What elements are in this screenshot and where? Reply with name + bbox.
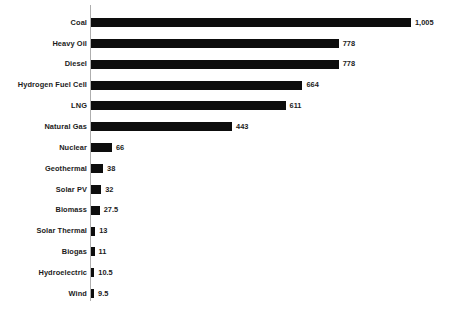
bar-category-label: Hydroelectric xyxy=(0,269,87,276)
bar-container: 1,005 xyxy=(91,12,434,33)
bar-container: 611 xyxy=(91,95,301,116)
bar xyxy=(91,289,94,298)
bar-value-label: 9.5 xyxy=(98,290,108,297)
bar-container: 778 xyxy=(91,54,355,75)
bar-category-label: Natural Gas xyxy=(0,123,87,130)
bar xyxy=(91,101,286,110)
bar-container: 27.5 xyxy=(91,200,118,221)
bar-row: Solar Thermal13 xyxy=(0,221,457,242)
bar-category-label: Solar PV xyxy=(0,186,87,193)
bar-container: 10.5 xyxy=(91,262,113,283)
bar-row: Solar PV32 xyxy=(0,179,457,200)
bar-category-label: Hydrogen Fuel Cell xyxy=(0,81,87,88)
bar-container: 38 xyxy=(91,158,115,179)
bar-value-label: 664 xyxy=(306,81,318,88)
bar xyxy=(91,143,112,152)
bar-container: 778 xyxy=(91,33,355,54)
bar-chart: Coal1,005Heavy Oil778Diesel778Hydrogen F… xyxy=(0,0,457,315)
bar xyxy=(91,39,339,48)
bar-value-label: 10.5 xyxy=(98,269,112,276)
bar xyxy=(91,18,411,27)
bar-container: 13 xyxy=(91,221,107,242)
bar-container: 32 xyxy=(91,179,113,200)
bar-value-label: 27.5 xyxy=(104,206,118,213)
bar-category-label: Geothermal xyxy=(0,165,87,172)
bar xyxy=(91,164,103,173)
bar-category-label: Diesel xyxy=(0,60,87,67)
bar-value-label: 443 xyxy=(236,123,248,130)
bar-category-label: Wind xyxy=(0,290,87,297)
bar-value-label: 11 xyxy=(99,248,107,255)
bar-value-label: 38 xyxy=(107,165,115,172)
bar-row: Biogas11 xyxy=(0,241,457,262)
bar-row: Geothermal38 xyxy=(0,158,457,179)
bar-container: 11 xyxy=(91,241,106,262)
bar-row: Diesel778 xyxy=(0,54,457,75)
bar-container: 443 xyxy=(91,116,248,137)
bar-value-label: 32 xyxy=(105,186,113,193)
bar-value-label: 778 xyxy=(343,60,355,67)
bar xyxy=(91,268,94,277)
bar-container: 664 xyxy=(91,75,319,96)
bar-row: Natural Gas443 xyxy=(0,116,457,137)
bar-category-label: Coal xyxy=(0,19,87,26)
bar xyxy=(91,206,100,215)
bar-value-label: 66 xyxy=(116,144,124,151)
bar-row: Coal1,005 xyxy=(0,12,457,33)
bar-value-label: 778 xyxy=(343,40,355,47)
bar-category-label: Nuclear xyxy=(0,144,87,151)
bar-row: Wind9.5 xyxy=(0,283,457,304)
bar-row: Biomass27.5 xyxy=(0,200,457,221)
bar xyxy=(91,227,95,236)
bar-row: Nuclear66 xyxy=(0,137,457,158)
bar-category-label: Biomass xyxy=(0,206,87,213)
bar-value-label: 611 xyxy=(290,102,302,109)
bar xyxy=(91,185,101,194)
bar-container: 9.5 xyxy=(91,283,108,304)
bar xyxy=(91,60,339,69)
bar xyxy=(91,247,95,256)
bar-category-label: LNG xyxy=(0,102,87,109)
bar-category-label: Biogas xyxy=(0,248,87,255)
bar-row: LNG611 xyxy=(0,95,457,116)
bar xyxy=(91,81,302,90)
bar-category-label: Heavy Oil xyxy=(0,40,87,47)
bar xyxy=(91,122,232,131)
bar-row: Hydrogen Fuel Cell664 xyxy=(0,75,457,96)
bar-value-label: 13 xyxy=(99,227,107,234)
plot-area: Coal1,005Heavy Oil778Diesel778Hydrogen F… xyxy=(0,0,457,315)
bar-container: 66 xyxy=(91,137,124,158)
bar-category-label: Solar Thermal xyxy=(0,227,87,234)
bar-row: Hydroelectric10.5 xyxy=(0,262,457,283)
bar-value-label: 1,005 xyxy=(415,19,434,26)
bar-row: Heavy Oil778 xyxy=(0,33,457,54)
